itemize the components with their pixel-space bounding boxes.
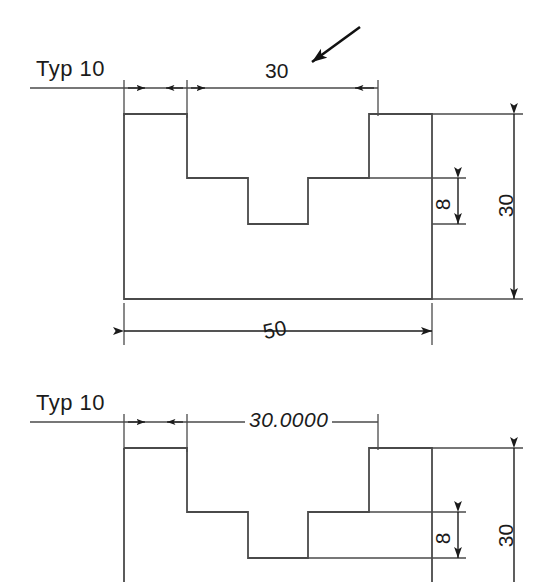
pointer-arrow-icon — [312, 27, 360, 62]
height-dimension-label-upper: 30 — [495, 194, 516, 217]
step-block-outline-upper — [124, 114, 432, 299]
top-dimension-label-lower: 30.0000 — [245, 409, 332, 430]
top-dimension-label-upper: 30 — [265, 60, 288, 81]
typ-label-upper: Typ 10 — [36, 58, 105, 80]
drawing-canvas — [0, 0, 554, 582]
step-dimension-label-upper: 8 — [432, 199, 453, 211]
drawing-sheet: Typ 10 30 50 30 8 Typ 10 30.0000 30 8 — [0, 0, 554, 582]
bottom-dimension-label-upper: 50 — [261, 317, 288, 342]
typ-label-lower: Typ 10 — [36, 392, 105, 414]
step-dimension-label-lower: 8 — [432, 533, 453, 545]
step-block-outline-lower — [124, 448, 432, 582]
height-dimension-label-lower: 30 — [495, 524, 516, 547]
lower-view-group — [30, 414, 523, 582]
